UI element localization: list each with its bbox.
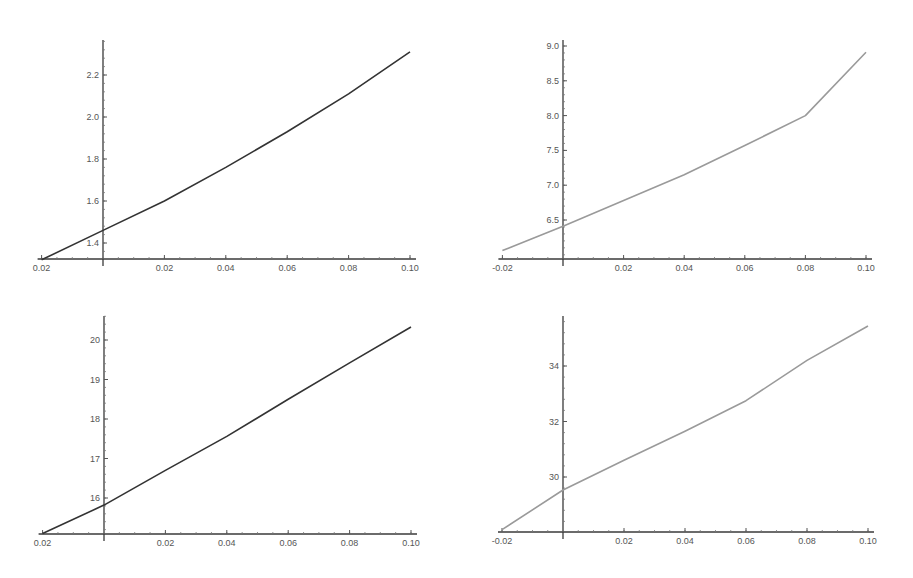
x-tick-label: 0.04 bbox=[676, 536, 694, 546]
y-tick-label: 34 bbox=[549, 361, 559, 371]
x-tick-label: 0.02 bbox=[615, 536, 633, 546]
y-tick-label: 32 bbox=[549, 417, 559, 427]
chart-bottom-right: -0.020.020.040.060.080.10303234 bbox=[0, 0, 913, 578]
x-tick-label: 0.10 bbox=[859, 536, 877, 546]
data-line bbox=[502, 326, 868, 530]
x-tick-label: 0.08 bbox=[798, 536, 816, 546]
x-tick-label: -0.02 bbox=[492, 536, 513, 546]
x-tick-label: 0.06 bbox=[737, 536, 755, 546]
y-tick-label: 30 bbox=[549, 472, 559, 482]
